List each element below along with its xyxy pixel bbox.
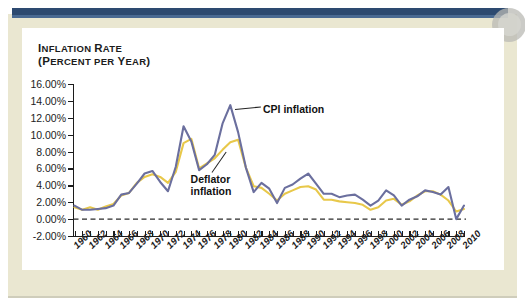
annotation-deflator-label-line2: inflation <box>191 185 232 197</box>
annotation-cpi-label: CPI inflation <box>263 103 324 115</box>
annotation-deflator: Deflator inflation <box>191 173 232 197</box>
series-line-deflator <box>75 139 465 212</box>
series-lines <box>0 0 525 308</box>
annotation-deflator-label-line1: Deflator <box>191 173 232 185</box>
series-line-cpi <box>75 105 465 219</box>
annotation-cpi: CPI inflation <box>263 103 324 115</box>
figure-container: INFLATION RATE (PERCENT PER YEAR) 16.00%… <box>0 0 525 308</box>
